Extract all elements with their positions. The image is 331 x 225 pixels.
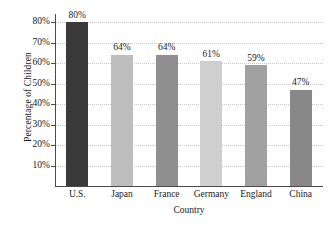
bar-value-label: 64% [158,43,175,53]
bar-germany[interactable]: 61% [200,61,222,186]
y-axis-tick-mark [51,84,55,85]
y-axis-line [55,14,56,186]
bar-value-label: 80% [69,11,86,21]
y-axis-tick-label: 60% [33,58,50,68]
y-axis-tick-mark [51,22,55,23]
y-axis-tick-label: 50% [33,79,50,89]
gridline [55,63,323,64]
gridline [55,22,323,23]
gridline [55,166,323,167]
y-axis-tick-mark [51,104,55,105]
y-axis-tick-mark [51,166,55,167]
bar-china[interactable]: 47% [290,90,312,186]
x-axis-category-label: France [154,190,180,200]
bar-value-label: 61% [203,50,220,60]
bar-value-label: 64% [113,43,130,53]
gridline [55,145,323,146]
x-axis-title: Country [55,205,323,215]
plot-area: 10%20%30%40%50%60%70%80% 80%64%64%61%59%… [55,14,323,186]
bar-chart-figure: Percentage of Children 10%20%30%40%50%60… [0,0,331,225]
y-axis-tick-mark [51,145,55,146]
bar-japan[interactable]: 64% [111,55,133,186]
gridline [55,84,323,85]
gridline [55,125,323,126]
y-axis-tick-label: 40% [33,99,50,109]
bar-value-label: 59% [247,54,264,64]
x-axis-category-label: U.S. [69,190,86,200]
bar-france[interactable]: 64% [156,55,178,186]
x-axis-category-label: China [289,190,312,200]
gridline [55,104,323,105]
y-axis-tick-label: 30% [33,120,50,130]
bar-england[interactable]: 59% [245,65,267,186]
y-axis-tick-label: 10% [33,161,50,171]
x-axis-category-label: Germany [194,190,229,200]
gridline [55,43,323,44]
y-axis-tick-label: 80% [33,17,50,27]
y-axis-title: Percentage of Children [23,17,33,177]
x-axis-category-label: England [240,190,272,200]
x-axis-category-label: Japan [111,190,133,200]
bar-u-s[interactable]: 80% [66,22,88,186]
y-axis-tick-mark [51,125,55,126]
y-axis-tick-label: 20% [33,140,50,150]
x-axis-line [55,186,323,187]
y-axis-tick-mark [51,43,55,44]
y-axis-tick-label: 70% [33,38,50,48]
y-axis-tick-mark [51,63,55,64]
bar-value-label: 47% [292,78,309,88]
